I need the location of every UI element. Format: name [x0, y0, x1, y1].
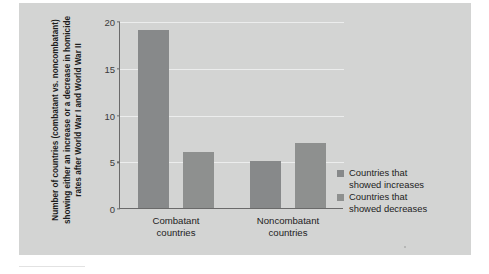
- y-axis-tick-mark: [117, 21, 120, 22]
- legend-label: Countries thatshowed decreases: [349, 191, 427, 214]
- x-axis-tick-label-line: countries: [257, 227, 319, 239]
- x-axis-tick-label-line: Combatant: [153, 215, 200, 227]
- legend-item: Countries thatshowed increases: [337, 167, 467, 190]
- gridline: [120, 22, 344, 23]
- y-axis-tick-label: 15: [104, 63, 115, 74]
- legend-swatch-icon: [337, 194, 344, 201]
- legend-label-line2: showed increases: [349, 179, 424, 191]
- page-speck: [404, 246, 406, 248]
- y-axis-title-container: Number of countries (combatant vs. nonco…: [30, 8, 104, 232]
- bar: [295, 143, 326, 208]
- y-axis-tick-mark: [117, 68, 120, 69]
- legend-label: Countries thatshowed increases: [349, 167, 424, 190]
- legend-label-line1: Countries that: [349, 167, 424, 179]
- bar: [183, 152, 214, 208]
- y-axis-tick-label: 20: [104, 17, 115, 28]
- plot-inner: 05101520CombatantcountriesNoncombatantco…: [120, 22, 343, 208]
- y-axis-tick-label: 10: [104, 110, 115, 121]
- y-axis-tick-mark: [117, 162, 120, 163]
- y-axis-tick-mark: [117, 208, 120, 209]
- y-axis-tick-label: 5: [110, 157, 115, 168]
- y-axis-tick-mark: [117, 115, 120, 116]
- legend-label-line2: showed decreases: [349, 203, 427, 215]
- x-axis-tick-label-line: countries: [153, 227, 200, 239]
- y-axis-title: Number of countries (combatant vs. nonco…: [50, 9, 85, 231]
- bar: [138, 30, 169, 208]
- x-axis-tick-label: Noncombatantcountries: [257, 215, 319, 239]
- bar: [250, 161, 281, 208]
- legend-label-line1: Countries that: [349, 191, 427, 203]
- x-axis-tick-label: Combatantcountries: [153, 215, 200, 239]
- x-axis-tick-label-line: Noncombatant: [257, 215, 319, 227]
- figure-root: Number of countries (combatant vs. nonco…: [0, 0, 489, 274]
- y-axis-tick-label: 0: [110, 204, 115, 215]
- plot-area: 05101520CombatantcountriesNoncombatantco…: [119, 22, 343, 209]
- footer-rule: [19, 266, 85, 267]
- legend-swatch-icon: [337, 170, 344, 177]
- chart-legend: Countries thatshowed increasesCountries …: [337, 167, 467, 215]
- legend-item: Countries thatshowed decreases: [337, 191, 467, 214]
